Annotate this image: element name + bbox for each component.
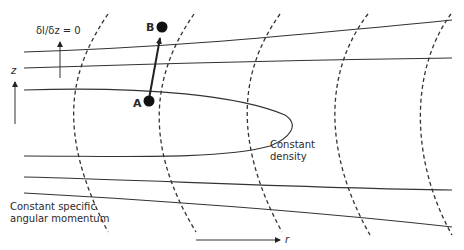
- constant-density-label-2: density: [270, 151, 307, 162]
- angmom-label-2: angular momentum: [10, 213, 109, 224]
- point-a-label: A: [133, 97, 142, 110]
- point-a-marker: [144, 96, 155, 107]
- angmom-curve-3: [247, 14, 282, 232]
- angmom-curve-2: [159, 14, 196, 232]
- angmom-curve-1: [74, 14, 108, 232]
- angmom-curve-4: [335, 14, 370, 235]
- gradient-label: δl/δz = 0: [36, 25, 81, 36]
- constant-density-curve: [24, 89, 292, 156]
- z-axis-label: z: [10, 65, 17, 76]
- diagram-canvas: δl/δz = 0 z r A B Constant density Const…: [0, 0, 464, 250]
- point-b-label: B: [146, 21, 154, 34]
- top-inner-line: [24, 58, 452, 68]
- displacement-arrow: [149, 38, 160, 99]
- constant-density-label: Constant: [270, 139, 315, 150]
- r-axis-label: r: [285, 234, 290, 245]
- angmom-label: Constant specific: [10, 201, 96, 212]
- angmom-curve-5: [420, 14, 452, 235]
- point-b-marker: [157, 22, 168, 33]
